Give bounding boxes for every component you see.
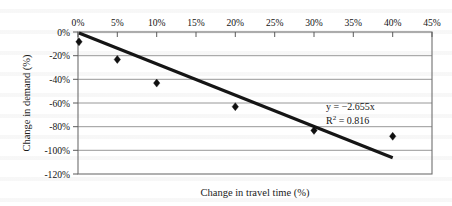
equation-label: y = −2.655x bbox=[326, 101, 375, 112]
xtick-label-10: 10% bbox=[148, 17, 166, 28]
xtick-label-40: 40% bbox=[384, 17, 402, 28]
xtick-label-5: 5% bbox=[111, 17, 124, 28]
xtick-label-45: 45% bbox=[423, 17, 441, 28]
data-point-1 bbox=[114, 56, 120, 64]
x-axis-tickmarks bbox=[78, 32, 432, 37]
ytick-label-minus60: -60% bbox=[49, 98, 70, 109]
x-axis-tick-labels: 0% 5% 10% 15% 20% 25% 30% 35% 40% 45% bbox=[72, 17, 441, 28]
y-axis-title: Change in demand (%) bbox=[21, 54, 33, 152]
xtick-label-35: 35% bbox=[345, 17, 363, 28]
x-axis-title: Change in travel time (%) bbox=[200, 187, 310, 199]
chart-canvas: 0% 5% 10% 15% 20% 25% 30% 35% 40% 45% 0%… bbox=[0, 0, 452, 206]
ytick-label-minus120: -120% bbox=[44, 169, 70, 180]
scatter-chart-figure: 0% 5% 10% 15% 20% 25% 30% 35% 40% 45% 0%… bbox=[0, 0, 452, 206]
y-axis-tick-labels: 0% -20% -40% -60% -80% -100% -120% bbox=[44, 27, 70, 180]
data-point-0 bbox=[76, 38, 82, 46]
xtick-label-15: 15% bbox=[187, 17, 205, 28]
y-axis-tickmarks bbox=[73, 32, 78, 174]
xtick-label-20: 20% bbox=[227, 17, 245, 28]
r-squared-label: R2 = 0.816 bbox=[326, 114, 369, 126]
r-squared-suffix: = 0.816 bbox=[336, 115, 369, 126]
xtick-label-25: 25% bbox=[266, 17, 284, 28]
trendline bbox=[79, 33, 393, 158]
ytick-label-minus80: -80% bbox=[49, 121, 70, 132]
xtick-label-30: 30% bbox=[305, 17, 323, 28]
ytick-label-minus40: -40% bbox=[49, 74, 70, 85]
regression-annotation: y = −2.655x R2 = 0.816 bbox=[326, 101, 375, 126]
data-point-2 bbox=[154, 79, 160, 87]
xtick-label-0: 0% bbox=[72, 17, 85, 28]
ytick-label-0: 0% bbox=[57, 27, 70, 38]
data-point-5 bbox=[390, 132, 396, 140]
ytick-label-minus100: -100% bbox=[44, 145, 70, 156]
ytick-label-minus20: -20% bbox=[49, 50, 70, 61]
data-point-3 bbox=[232, 103, 238, 111]
